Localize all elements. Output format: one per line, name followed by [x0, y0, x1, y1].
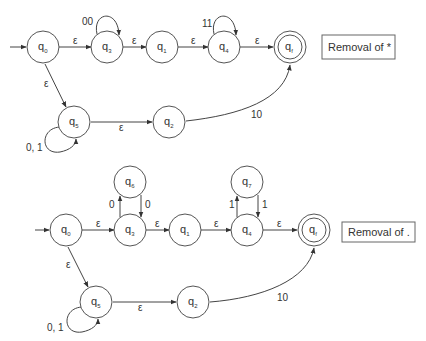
caption-removal-of-dot: Removal of . — [348, 226, 410, 238]
edge-label-q0-q5: ε — [66, 259, 71, 270]
state-q1: q1 — [146, 31, 178, 63]
edge-q0-q5 — [68, 247, 88, 287]
state-q3: q3 — [91, 31, 123, 63]
nfa-diagram-canvas: ε 00 ε ε 11 ε ε 0, 1 ε 10 q0 q3 q1 — [0, 0, 426, 341]
edge-label-q0-q3: ε — [73, 35, 78, 46]
edge-label-q4-qf: ε — [277, 218, 282, 229]
edge-label-q7-q4: 1 — [262, 199, 268, 210]
state-q7: q7 — [231, 166, 263, 198]
state-q5: q5 — [80, 286, 112, 318]
state-qf-final: qf — [274, 31, 306, 63]
edge-label-q2-qf: 10 — [277, 292, 289, 303]
state-q0: q0 — [50, 214, 82, 246]
state-q2: q2 — [153, 106, 185, 138]
state-q0: q0 — [27, 31, 59, 63]
caption-box-removal-of-dot: Removal of . — [342, 222, 415, 242]
edge-label-q4-q7: 1 — [229, 199, 235, 210]
caption-box-removal-of-star: Removal of * — [322, 35, 395, 59]
edge-label-q5-q2: ε — [138, 302, 143, 313]
state-q2: q2 — [177, 286, 209, 318]
state-q1: q1 — [169, 214, 201, 246]
edge-label-q4-loop: 11 — [202, 18, 213, 29]
edge-label-q5-loop: 0, 1 — [26, 142, 43, 153]
edge-q2-qf — [186, 65, 290, 121]
edge-label-q3-q6: 0 — [109, 199, 115, 210]
caption-removal-of-star: Removal of * — [328, 41, 392, 53]
edge-label-q5-q2: ε — [119, 122, 124, 133]
edge-label-q0-q5: ε — [44, 78, 49, 89]
edge-label-q4-qf: ε — [255, 35, 260, 46]
edge-label-q3-q1: ε — [155, 218, 160, 229]
edge-q2-qf — [210, 248, 314, 302]
state-qf-final: qf — [298, 214, 330, 246]
edge-label-q3-loop: 00 — [82, 16, 94, 27]
state-q5: q5 — [58, 106, 90, 138]
state-q4: q4 — [208, 31, 240, 63]
edge-label-q1-q4: ε — [214, 218, 219, 229]
state-q6: q6 — [114, 166, 146, 198]
edge-label-q6-q3: 0 — [145, 199, 151, 210]
edge-label-q1-q4: ε — [191, 35, 196, 46]
edge-label-q3-q1: ε — [132, 35, 137, 46]
edge-label-q5-loop: 0, 1 — [47, 322, 64, 333]
diagram-removal-of-dot: ε 0 0 ε ε 1 1 ε ε 0, 1 ε 10 q0 q3 — [35, 166, 415, 333]
diagram-removal-of-star: ε 00 ε ε 11 ε ε 0, 1 ε 10 q0 q3 q1 — [10, 16, 395, 153]
state-q4: q4 — [231, 214, 263, 246]
state-q3: q3 — [114, 214, 146, 246]
edge-label-q2-qf: 10 — [251, 109, 263, 120]
edge-label-q0-q3: ε — [96, 218, 101, 229]
